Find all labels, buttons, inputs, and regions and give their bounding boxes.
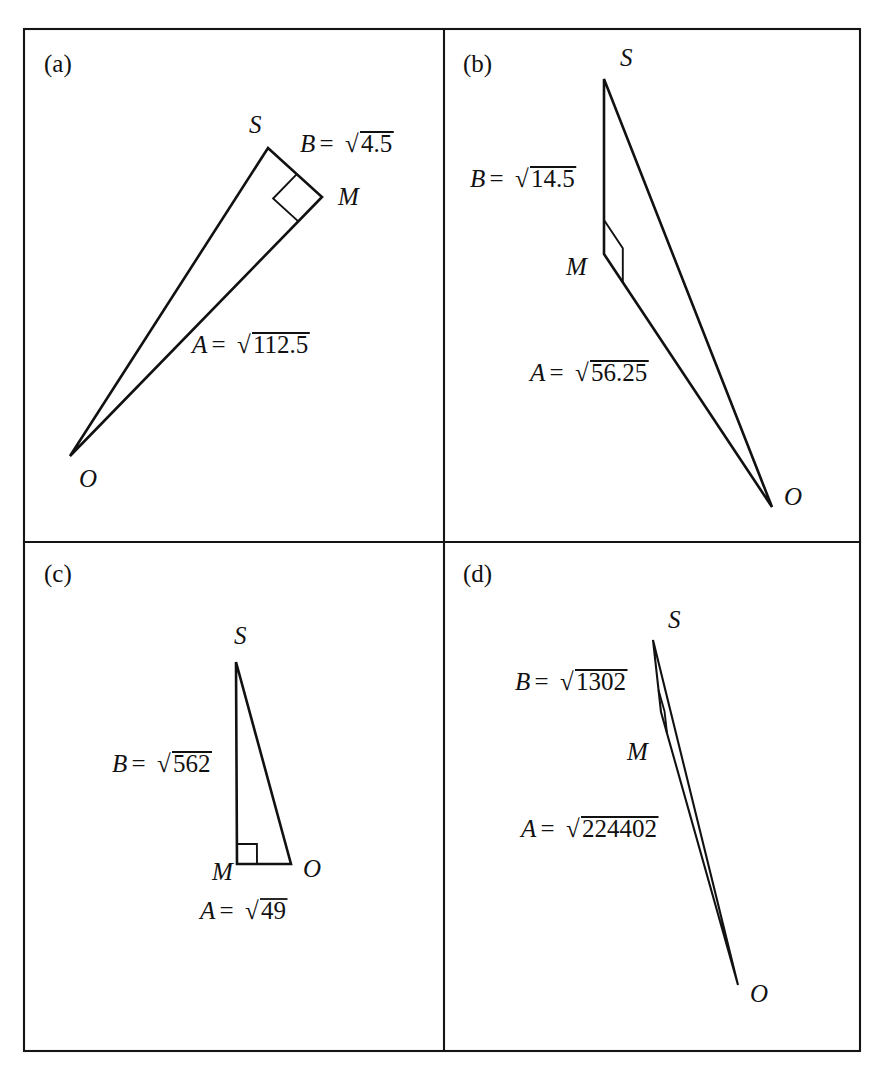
panel-b-label-A: A=√56.25 (528, 359, 649, 386)
panel-b-tag: (b) (463, 50, 492, 78)
radicand: 112.5 (253, 331, 308, 358)
frame-group (24, 29, 860, 1051)
panel-d-vertex-label-S: S (668, 606, 681, 633)
panel-b-vertex-label-M: M (565, 253, 588, 280)
math-variable: B (300, 130, 315, 157)
radical-sign: √ (345, 130, 359, 157)
panel-a-tag: (a) (44, 50, 72, 78)
radical-sign: √ (157, 750, 171, 777)
panel-c-label-B: B=√562 (112, 750, 212, 777)
math-variable: B (470, 165, 485, 192)
panel-b-right-angle-mark (604, 220, 623, 282)
radicand: 4.5 (361, 130, 392, 157)
radical-sign: √ (515, 165, 529, 192)
figure-root: (a) S M O B=√4.5 A=√112.5 (b) S M O B=√1… (0, 0, 876, 1073)
panel-d-label-B: B=√1302 (515, 668, 628, 695)
math-equals: = (220, 897, 234, 924)
panel-d-vertex-label-M: M (626, 738, 649, 765)
radicand: 14.5 (531, 165, 575, 192)
math-equals: = (490, 165, 504, 192)
panel-d: (d) S M O B=√1302 A=√224402 (463, 560, 768, 1007)
radicand: 56.25 (591, 359, 647, 386)
panel-c: (c) S M O B=√562 A=√49 (44, 560, 321, 924)
panel-a-vertex-label-M: M (337, 183, 360, 210)
math-variable: B (515, 668, 530, 695)
figure-border (24, 29, 860, 1051)
radical-sign: √ (237, 331, 251, 358)
panel-b-label-B: B=√14.5 (470, 165, 576, 192)
panel-b-vertex-label-S: S (620, 44, 633, 71)
panel-c-vertex-label-O: O (303, 855, 321, 882)
math-equals: = (541, 815, 555, 842)
math-equals: = (320, 130, 334, 157)
panel-c-vertex-label-M: M (211, 858, 234, 885)
panel-a: (a) S M O B=√4.5 A=√112.5 (44, 50, 394, 492)
math-equals: = (535, 668, 549, 695)
radicand: 224402 (582, 815, 657, 842)
panel-a-vertex-label-S: S (249, 111, 262, 138)
panel-a-label-B: B=√4.5 (300, 130, 394, 157)
panel-d-tag: (d) (463, 560, 492, 588)
geometry-figure: (a) S M O B=√4.5 A=√112.5 (b) S M O B=√1… (0, 0, 876, 1073)
panel-c-triangle (236, 662, 291, 864)
panel-c-right-angle-mark (237, 844, 257, 864)
panel-d-vertex-label-O: O (750, 980, 768, 1007)
radical-sign: √ (566, 815, 580, 842)
math-variable: A (519, 815, 537, 842)
panel-b-triangle (604, 79, 772, 507)
panel-d-right-angle-mark (659, 690, 667, 733)
math-variable: B (112, 750, 127, 777)
panel-c-tag: (c) (44, 560, 72, 588)
math-variable: A (198, 897, 216, 924)
radicand: 49 (261, 897, 286, 924)
math-variable: A (528, 359, 546, 386)
radical-sign: √ (575, 359, 589, 386)
radical-sign: √ (560, 668, 574, 695)
radicand: 562 (173, 750, 211, 777)
panel-c-label-A: A=√49 (198, 897, 288, 924)
math-variable: A (190, 331, 208, 358)
math-equals: = (550, 359, 564, 386)
radical-sign: √ (245, 897, 259, 924)
panel-c-vertex-label-S: S (234, 622, 247, 649)
panel-a-label-A: A=√112.5 (190, 331, 310, 358)
radicand: 1302 (576, 668, 626, 695)
math-equals: = (212, 331, 226, 358)
panel-b-vertex-label-O: O (784, 483, 802, 510)
panel-b: (b) S M O B=√14.5 A=√56.25 (463, 44, 802, 510)
panel-a-vertex-label-O: O (79, 465, 97, 492)
panel-a-right-angle-mark (273, 174, 298, 221)
math-equals: = (132, 750, 146, 777)
panel-d-triangle (653, 640, 738, 985)
panel-d-label-A: A=√224402 (519, 815, 659, 842)
panel-a-triangle (70, 148, 322, 456)
